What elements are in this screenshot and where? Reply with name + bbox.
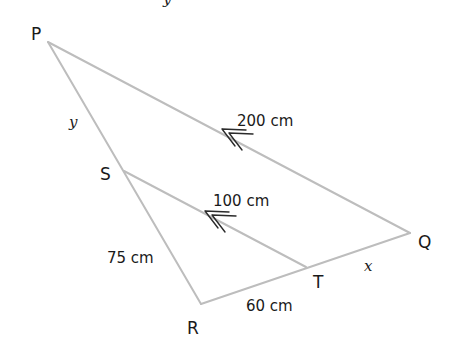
measure-rt: 60 cm — [246, 297, 293, 315]
cropped-heading-fragment: y — [162, 0, 172, 8]
measure-pq: 200 cm — [237, 112, 293, 130]
vertex-label-t: T — [312, 272, 324, 292]
similar-triangles-diagram: y P Q R S T 200 cm 100 cm 75 cm 60 cm y … — [0, 0, 454, 344]
edge-rq — [201, 233, 410, 304]
measure-sr: 75 cm — [107, 249, 154, 267]
measure-ps-variable: y — [68, 113, 78, 131]
vertex-label-s: S — [100, 164, 111, 184]
vertex-label-q: Q — [418, 232, 431, 252]
measure-tq-variable: x — [364, 257, 373, 275]
vertex-label-p: P — [31, 24, 41, 44]
measure-st: 100 cm — [213, 192, 269, 210]
vertex-label-r: R — [187, 318, 199, 338]
